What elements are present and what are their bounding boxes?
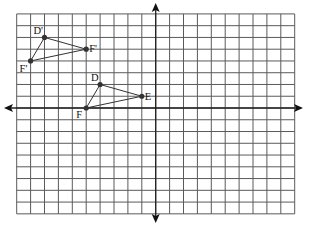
- vertex-point: [139, 94, 144, 99]
- coordinate-grid-figure: DEFD'F'F': [0, 0, 311, 229]
- vertex-point: [28, 58, 33, 63]
- vertex-label: E: [145, 91, 151, 102]
- vertex-label: D': [34, 25, 44, 36]
- vertex-label: F': [89, 43, 97, 54]
- vertex-point: [84, 47, 89, 52]
- vertex-label: D: [91, 72, 99, 83]
- vertex-point: [84, 105, 89, 110]
- vertex-label: F': [20, 63, 28, 74]
- vertex-label: F: [76, 109, 82, 120]
